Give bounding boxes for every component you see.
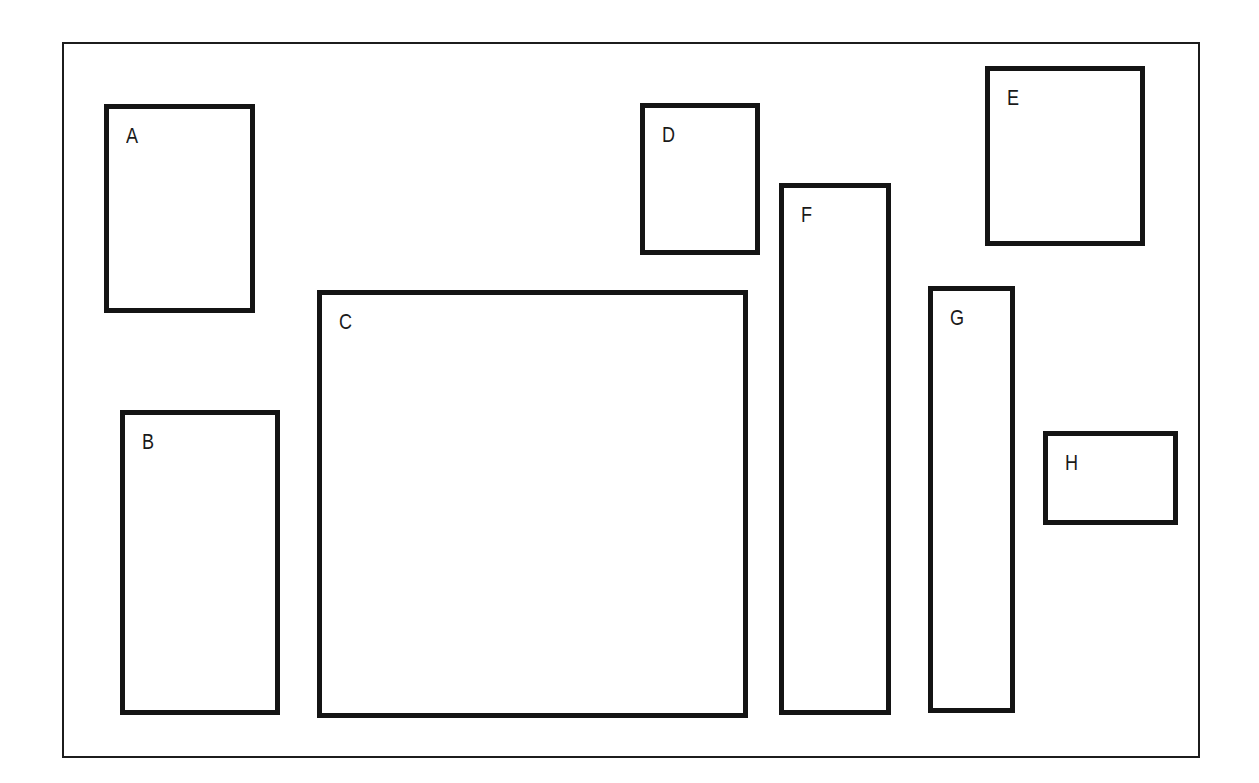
box-h-label: H [1065, 452, 1078, 474]
box-c-label: C [339, 311, 352, 333]
box-a-label: A [126, 125, 138, 147]
outer-frame: A B C D E F G H [62, 42, 1200, 758]
box-d-label: D [662, 124, 675, 146]
box-d: D [640, 103, 760, 255]
box-f-label: F [801, 204, 812, 226]
box-h: H [1043, 431, 1178, 525]
box-f: F [779, 183, 891, 715]
box-b-label: B [142, 431, 154, 453]
box-c: C [317, 290, 748, 718]
box-b: B [120, 410, 280, 715]
box-e: E [985, 66, 1145, 246]
box-g-label: G [950, 307, 964, 329]
box-e-label: E [1007, 87, 1019, 109]
box-g: G [928, 286, 1015, 713]
box-a: A [104, 104, 255, 313]
figure-canvas: A B C D E F G H [0, 0, 1259, 783]
